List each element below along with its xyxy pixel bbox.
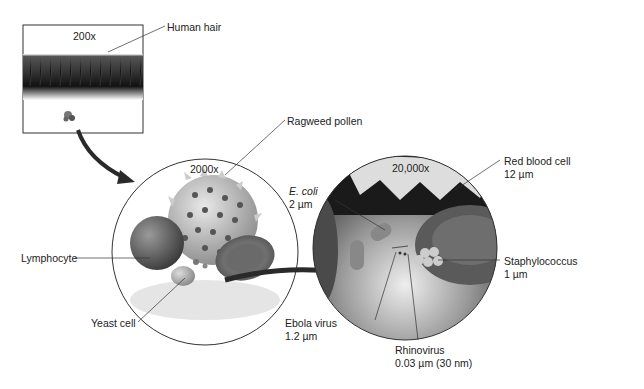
magnification-20000x: 20,000x <box>392 162 429 174</box>
ebola-size: 1.2 µm <box>285 330 337 343</box>
rbc-name: Red blood cell <box>504 155 571 168</box>
label-staphylococcus: Staphylococcus 1 µm <box>504 255 578 280</box>
label-ebola-virus: Ebola virus 1.2 µm <box>285 317 337 342</box>
staphylococcus-size: 1 µm <box>504 268 578 281</box>
circle-2000x <box>112 159 298 345</box>
label-lymphocyte: Lymphocyte <box>21 252 77 265</box>
label-ecoli: E. coli 2 µm <box>289 185 318 210</box>
ecoli-name: E. coli <box>289 185 318 198</box>
ebola-name: Ebola virus <box>285 317 337 330</box>
label-rhinovirus: Rhinovirus 0.03 µm (30 nm) <box>395 344 472 369</box>
magnification-2000x: 2000x <box>190 163 219 175</box>
staphylococcus-name: Staphylococcus <box>504 255 578 268</box>
label-human-hair: Human hair <box>167 21 221 34</box>
rbc-size: 12 µm <box>504 168 571 181</box>
label-ragweed-pollen: Ragweed pollen <box>287 115 362 128</box>
ecoli-size: 2 µm <box>289 198 318 211</box>
circle-20000x <box>302 155 525 340</box>
label-red-blood-cell: Red blood cell 12 µm <box>504 155 571 180</box>
rhinovirus-name: Rhinovirus <box>395 344 472 357</box>
rhinovirus-size: 0.03 µm (30 nm) <box>395 357 472 370</box>
magnification-200x: 200x <box>73 30 96 42</box>
label-yeast-cell: Yeast cell <box>91 317 136 330</box>
